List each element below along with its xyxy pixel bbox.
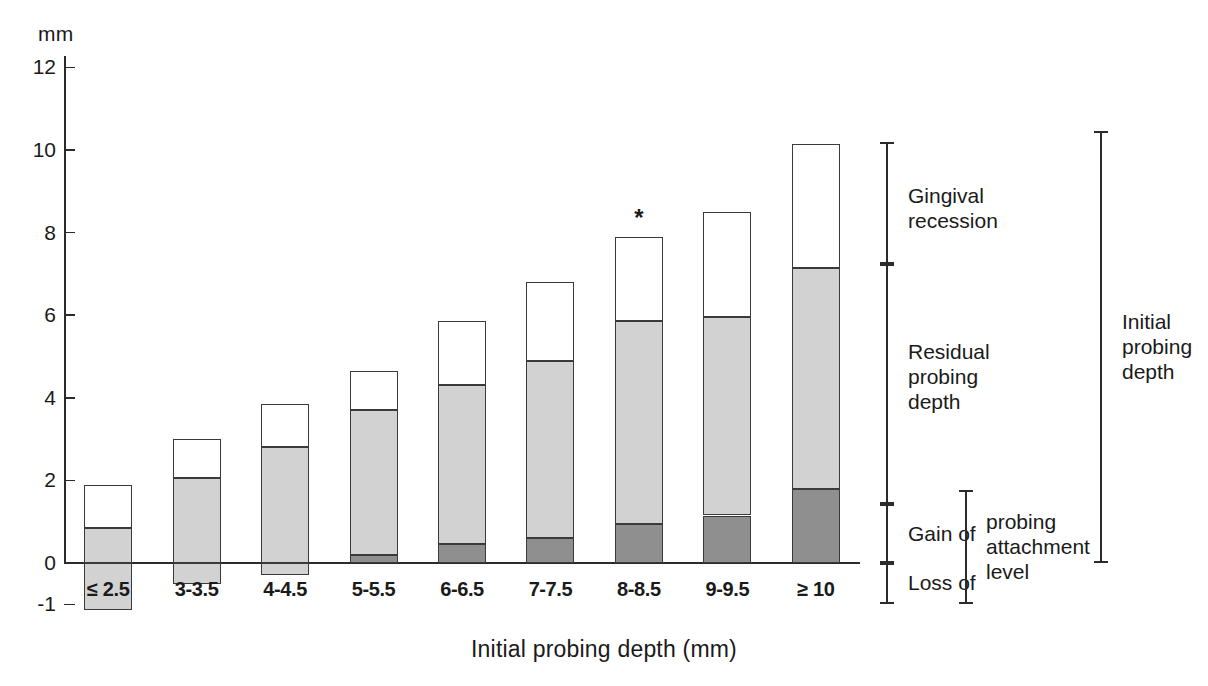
y-axis-tick — [64, 480, 75, 482]
x-axis-tick-label: 9-9.5 — [683, 578, 771, 601]
bar-segment-residual-probing-depth — [438, 385, 486, 544]
bar-segment-gingival-recession — [350, 371, 398, 410]
label-residual-line1: Residual — [908, 339, 990, 364]
bracket-stem — [965, 490, 967, 604]
bracket-stem — [886, 504, 888, 563]
bar-segment-residual-probing-depth — [703, 317, 751, 515]
bar-segment-gain-of-attachment — [438, 544, 486, 563]
bar-segment-gingival-recession — [261, 404, 309, 447]
x-axis-tick-label: ≥ 10 — [772, 578, 860, 601]
label-initial-line1: Initial — [1122, 309, 1192, 334]
x-axis-tick-label: ≤ 2.5 — [64, 578, 152, 601]
label-pal-line1: probing — [986, 509, 1090, 534]
y-axis-tick-label: 2 — [10, 469, 56, 490]
y-axis-tick — [64, 562, 75, 564]
bar-segment-gingival-recession — [173, 439, 221, 478]
y-axis-tick-label: 6 — [10, 304, 56, 325]
x-axis-tick-label: 3-3.5 — [152, 578, 240, 601]
bar-segment-gingival-recession — [792, 144, 840, 268]
bar-segment-gingival-recession — [703, 212, 751, 317]
y-axis-tick — [64, 314, 75, 316]
label-residual-line2: probing — [908, 364, 990, 389]
bracket-stem — [1100, 131, 1102, 563]
bracket-stem — [886, 563, 888, 604]
label-probing-attachment-level: probing attachment level — [986, 509, 1090, 584]
x-axis-tick-label: 7-7.5 — [506, 578, 594, 601]
label-gingival-recession-line2: recession — [908, 208, 998, 233]
y-axis-tick-label: 10 — [10, 139, 56, 160]
bar-segment-loss-of-attachment — [261, 563, 309, 575]
y-axis-tick — [64, 67, 75, 69]
significance-star-marker: * — [619, 209, 659, 227]
bar-segment-gain-of-attachment — [792, 489, 840, 563]
bar-segment-residual-probing-depth — [792, 268, 840, 489]
bracket-cap-bottom — [1094, 561, 1108, 563]
y-axis-tick — [64, 232, 75, 234]
stacked-bar-chart: mm 121086420-1 ≤ 2.53-3.54-4.55-5.56-6.5… — [0, 0, 1208, 686]
bar-segment-residual-probing-depth — [84, 528, 132, 563]
y-axis-tick-label: -1 — [10, 593, 56, 614]
label-initial-probing-depth: Initial probing depth — [1122, 309, 1192, 384]
bracket-cap-bottom — [959, 602, 973, 604]
bar-segment-residual-probing-depth — [350, 410, 398, 555]
label-residual-line3: depth — [908, 389, 990, 414]
y-axis-tick — [64, 604, 75, 606]
bracket-cap-bottom — [880, 602, 894, 604]
label-initial-line3: depth — [1122, 359, 1192, 384]
label-pal-line2: attachment — [986, 534, 1090, 559]
label-residual-probing-depth: Residual probing depth — [908, 339, 990, 414]
label-initial-line2: probing — [1122, 334, 1192, 359]
y-axis-line — [64, 56, 66, 564]
bracket-stem — [886, 264, 888, 504]
bar-segment-residual-probing-depth — [526, 361, 574, 539]
x-axis-tick-label: 4-4.5 — [241, 578, 329, 601]
y-axis-tick-label: 12 — [10, 56, 56, 77]
bar-segment-residual-probing-depth — [173, 478, 221, 563]
y-axis-tick — [64, 149, 75, 151]
x-axis-title: Initial probing depth (mm) — [0, 636, 1208, 663]
bar-segment-gingival-recession — [526, 282, 574, 360]
y-axis-tick — [64, 397, 75, 399]
bar-segment-gingival-recession — [438, 321, 486, 385]
bar-segment-gingival-recession — [615, 237, 663, 322]
y-axis-tick-label: 0 — [10, 552, 56, 573]
label-pal-line3: level — [986, 559, 1090, 584]
bar-segment-residual-probing-depth — [615, 321, 663, 523]
y-axis-tick-label: 8 — [10, 222, 56, 243]
label-gingival-recession-line1: Gingival — [908, 183, 998, 208]
bar-segment-gain-of-attachment — [615, 524, 663, 563]
y-axis-unit-label: mm — [38, 22, 74, 46]
x-axis-tick-label: 6-6.5 — [418, 578, 506, 601]
y-axis-tick-label: 4 — [10, 387, 56, 408]
bar-segment-residual-probing-depth — [261, 447, 309, 563]
label-gingival-recession: Gingival recession — [908, 183, 998, 233]
bar-segment-gain-of-attachment — [526, 538, 574, 563]
x-axis-tick-label: 5-5.5 — [329, 578, 417, 601]
bracket-stem — [886, 142, 888, 264]
bar-segment-gain-of-attachment — [350, 555, 398, 563]
bar-segment-gain-of-attachment — [703, 516, 751, 563]
x-axis-tick-label: 8-8.5 — [595, 578, 683, 601]
bar-segment-gingival-recession — [84, 485, 132, 528]
